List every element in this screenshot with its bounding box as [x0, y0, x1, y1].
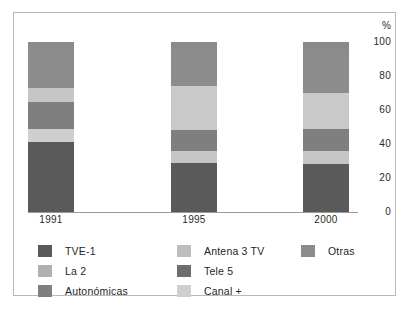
x-label-2000: 2000	[296, 214, 356, 225]
legend-swatch-icon	[177, 285, 191, 297]
chart-frame: % 100806040200 199119952000 TVE-1La 2Aut…	[13, 12, 396, 296]
bar-1995	[171, 42, 217, 212]
legend-label: Tele 5	[204, 265, 233, 277]
legend-item-auton-micas[interactable]: Autonómicas	[38, 281, 128, 301]
chart-legend: TVE-1La 2AutonómicasAntena 3 TVTele 5Can…	[14, 241, 397, 297]
bar-segment-auton-micas	[303, 129, 349, 151]
bar-segment-canal	[28, 129, 74, 143]
legend-label: TVE-1	[65, 245, 96, 257]
bar-segment-tve-1	[303, 164, 349, 212]
legend-item-tve-1[interactable]: TVE-1	[38, 241, 128, 261]
legend-item-antena-3-tv[interactable]: Antena 3 TV	[177, 241, 264, 261]
bar-segment-otras	[171, 47, 217, 86]
legend-label: Canal +	[204, 285, 242, 297]
legend-item-otras[interactable]: Otras	[301, 241, 355, 261]
bar-segment-antena-3-tv	[303, 42, 349, 49]
legend-item-la-2[interactable]: La 2	[38, 261, 128, 281]
legend-swatch-icon	[38, 245, 52, 257]
legend-item-tele-5[interactable]: Tele 5	[177, 261, 264, 281]
legend-item-canal[interactable]: Canal +	[177, 281, 264, 301]
legend-swatch-icon	[177, 265, 191, 277]
legend-column-1: TVE-1La 2Autonómicas	[38, 241, 128, 301]
plot-area: % 100806040200 199119952000	[14, 13, 397, 218]
legend-column-2: Antena 3 TVTele 5Canal +	[177, 241, 264, 301]
legend-label: Antena 3 TV	[204, 245, 264, 257]
bar-2000	[303, 42, 349, 212]
legend-swatch-icon	[38, 265, 52, 277]
bar-1991	[28, 42, 74, 212]
bar-segment-tve-1	[28, 142, 74, 212]
legend-swatch-icon	[38, 285, 52, 297]
y-tick-60: 60	[379, 104, 391, 115]
y-tick-80: 80	[379, 70, 391, 81]
y-axis-unit-label: %	[382, 20, 391, 31]
bar-segment-tve-1	[171, 163, 217, 212]
legend-label: La 2	[65, 265, 86, 277]
bar-segment-otras	[28, 42, 74, 88]
bar-segment-canal	[171, 151, 217, 163]
x-label-1991: 1991	[21, 214, 81, 225]
legend-swatch-icon	[301, 245, 315, 257]
y-tick-20: 20	[379, 172, 391, 183]
legend-column-3: Otras	[301, 241, 355, 261]
bar-segment-la-2	[303, 93, 349, 129]
bar-segment-auton-micas	[171, 130, 217, 150]
y-tick-100: 100	[373, 36, 391, 47]
legend-label: Autonómicas	[65, 285, 128, 297]
bar-segment-canal	[303, 151, 349, 165]
y-tick-0: 0	[385, 206, 391, 217]
bar-segment-auton-micas	[28, 102, 74, 129]
x-label-1995: 1995	[164, 214, 224, 225]
x-axis-line	[28, 212, 358, 213]
bar-segment-la-2	[171, 86, 217, 130]
bar-segment-otras	[303, 49, 349, 93]
y-tick-40: 40	[379, 138, 391, 149]
bar-segment-la-2	[28, 88, 74, 102]
legend-swatch-icon	[177, 245, 191, 257]
legend-label: Otras	[328, 245, 355, 257]
